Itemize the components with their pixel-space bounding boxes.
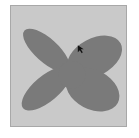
pointer-cursor-icon — [11, 6, 126, 126]
drawing-canvas[interactable] — [10, 5, 127, 127]
